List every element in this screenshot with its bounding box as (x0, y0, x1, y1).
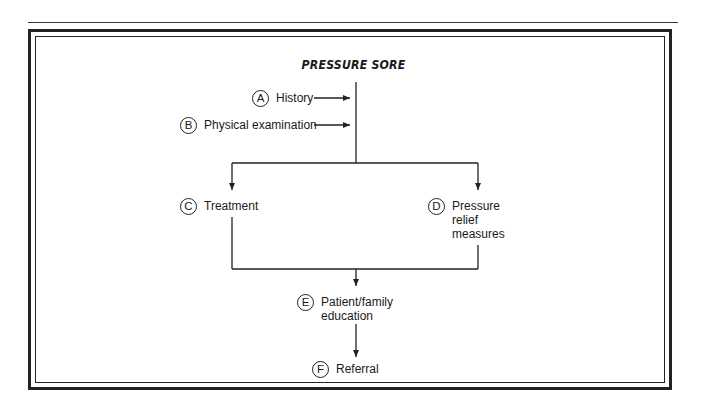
node-physical-examination: B Physical examination (180, 118, 317, 134)
node-referral-label: Referral (336, 362, 379, 376)
node-referral: F Referral (312, 362, 379, 378)
badge-e-icon: E (297, 294, 314, 311)
node-pressure-relief: D Pressure relief measures (428, 199, 505, 241)
badge-a-icon: A (252, 90, 269, 107)
node-treatment-label: Treatment (204, 199, 258, 213)
node-patient-education: E Patient/family education (297, 295, 393, 323)
node-patient-education-label: Patient/family education (321, 295, 393, 323)
badge-f-icon: F (312, 361, 329, 378)
badge-d-icon: D (428, 198, 445, 215)
flow-connectors (0, 0, 707, 416)
node-physical-examination-label: Physical examination (204, 118, 317, 132)
node-treatment: C Treatment (180, 199, 258, 215)
node-history-label: History (276, 91, 313, 105)
node-history: A History (252, 91, 313, 107)
badge-b-icon: B (180, 117, 197, 134)
node-pressure-relief-label: Pressure relief measures (452, 199, 505, 241)
badge-c-icon: C (180, 198, 197, 215)
